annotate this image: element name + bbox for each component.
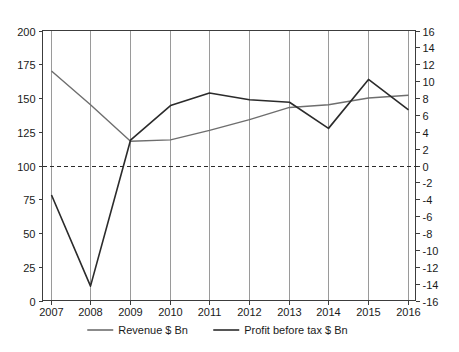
right-axis-tick-label: -12 bbox=[423, 262, 439, 274]
x-axis-tick-label: 2009 bbox=[118, 306, 142, 318]
chart-legend: Revenue $ BnProfit before tax $ Bn bbox=[87, 324, 347, 336]
legend-label-revenue: Revenue $ Bn bbox=[118, 324, 188, 336]
right-axis-tick-label: 2 bbox=[423, 144, 429, 156]
x-axis-tick-label: 2008 bbox=[78, 306, 102, 318]
right-axis-tick-label: -2 bbox=[423, 177, 433, 189]
series-line-revenue bbox=[52, 71, 409, 141]
right-axis-tick-label: 16 bbox=[423, 26, 435, 38]
x-axis-tick-label: 2016 bbox=[396, 306, 420, 318]
right-axis-tick-label: -14 bbox=[423, 279, 439, 291]
right-axis-tick-label: 10 bbox=[423, 76, 435, 88]
right-axis-tick-label: -4 bbox=[423, 194, 433, 206]
x-axis-tick-label: 2010 bbox=[158, 306, 182, 318]
right-axis-tick-label: 4 bbox=[423, 127, 429, 139]
data-series bbox=[52, 71, 409, 286]
right-axis-tick-labels: -16-14-12-10-8-6-4-20246810121416 bbox=[423, 26, 439, 308]
series-line-profit-before-tax bbox=[52, 79, 409, 286]
right-axis-tick-label: -6 bbox=[423, 211, 433, 223]
left-axis-tick-label: 175 bbox=[17, 59, 35, 71]
left-axis-tick-label: 75 bbox=[23, 194, 35, 206]
right-axis-tick-label: 6 bbox=[423, 110, 429, 122]
left-axis-tick-label: 0 bbox=[29, 296, 35, 308]
right-axis-tick-label: -16 bbox=[423, 296, 439, 308]
right-axis-tick-label: 12 bbox=[423, 59, 435, 71]
x-axis-tick-label: 2013 bbox=[277, 306, 301, 318]
x-axis-tick-label: 2015 bbox=[356, 306, 380, 318]
left-axis-ticks bbox=[39, 32, 43, 302]
x-axis-tick-labels: 2007200820092010201120122013201420152016 bbox=[39, 301, 420, 318]
right-axis-tick-label: -10 bbox=[423, 245, 439, 257]
left-axis-tick-labels: 0255075100125150175200 bbox=[17, 26, 35, 308]
left-axis-tick-label: 200 bbox=[17, 26, 35, 38]
x-axis-tick-label: 2007 bbox=[39, 306, 63, 318]
left-axis-tick-label: 25 bbox=[23, 262, 35, 274]
right-axis-tick-label: 8 bbox=[423, 93, 429, 105]
chart-figure: 0255075100125150175200 -16-14-12-10-8-6-… bbox=[0, 0, 459, 352]
left-axis-tick-label: 50 bbox=[23, 228, 35, 240]
right-axis-tick-label: 14 bbox=[423, 42, 435, 54]
left-axis-tick-label: 125 bbox=[17, 127, 35, 139]
left-axis-tick-label: 100 bbox=[17, 161, 35, 173]
left-axis-tick-label: 150 bbox=[17, 93, 35, 105]
right-axis-tick-label: 0 bbox=[423, 161, 429, 173]
x-axis-tick-label: 2011 bbox=[198, 306, 222, 318]
x-axis-tick-label: 2012 bbox=[237, 306, 261, 318]
right-axis-tick-label: -8 bbox=[423, 228, 433, 240]
gridlines bbox=[52, 31, 409, 301]
chart-canvas: 0255075100125150175200 -16-14-12-10-8-6-… bbox=[0, 0, 459, 352]
x-axis-tick-label: 2014 bbox=[316, 306, 340, 318]
legend-label-profit-before-tax: Profit before tax $ Bn bbox=[244, 324, 347, 336]
